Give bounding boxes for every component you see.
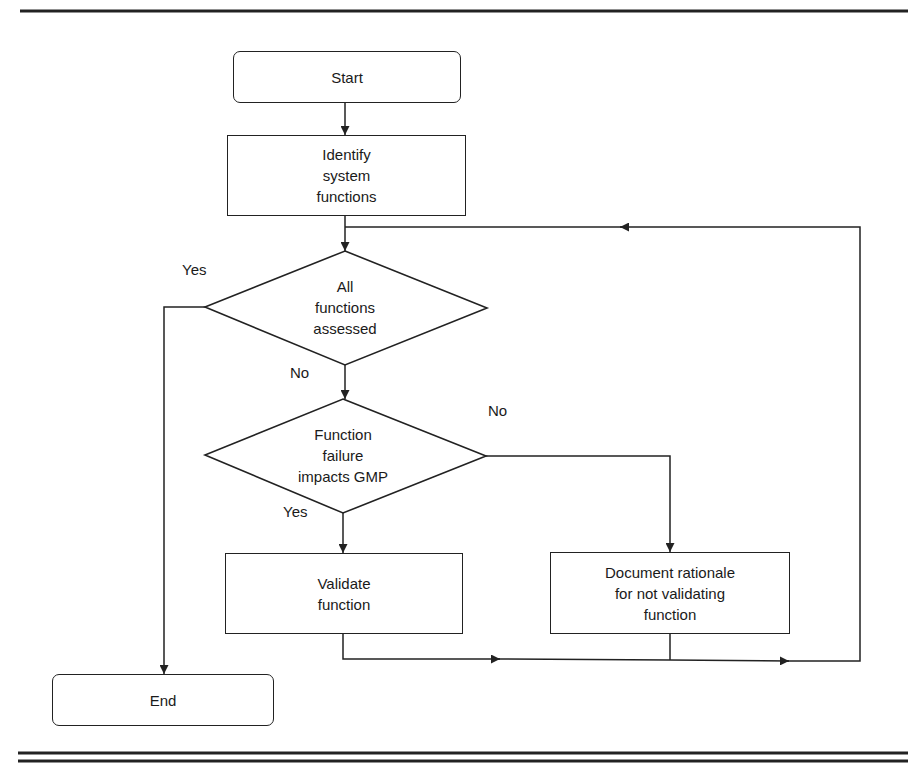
decision-impacts-gmp: Function failure impacts GMP [255, 420, 431, 490]
identify-functions-label: Identify system functions [316, 144, 376, 207]
end-label: End [150, 690, 177, 711]
edge-label-impacts-gmp-yes: Yes [283, 503, 307, 520]
identify-functions-node: Identify system functions [227, 135, 466, 216]
start-node: Start [233, 51, 461, 103]
edge-label-impacts-gmp-no: No [488, 402, 507, 419]
decision-impacts-gmp-label: Function failure impacts GMP [298, 424, 388, 487]
validate-function-label: Validate function [317, 573, 370, 615]
document-rationale-node: Document rationale for not validating fu… [550, 552, 790, 634]
decision-all-assessed-label: All functions assessed [313, 276, 376, 339]
edge-label-all-assessed-no: No [290, 364, 309, 381]
validate-function-node: Validate function [225, 553, 463, 634]
start-label: Start [331, 67, 363, 88]
flowchart-connectors [0, 0, 908, 781]
decision-all-assessed: All functions assessed [265, 272, 425, 342]
edge-label-all-assessed-yes: Yes [182, 261, 206, 278]
document-rationale-label: Document rationale for not validating fu… [605, 562, 735, 625]
end-node: End [52, 674, 274, 726]
